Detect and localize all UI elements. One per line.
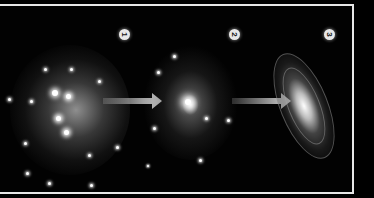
stage-2-cluster	[135, 35, 245, 170]
stage-3-spiral-galaxy	[270, 45, 350, 160]
stage-1-badge: 1	[119, 29, 130, 40]
stage-3-badge: 3	[324, 29, 335, 40]
stage-2-badge: 2	[229, 29, 240, 40]
stage-1-cloud	[0, 30, 135, 180]
